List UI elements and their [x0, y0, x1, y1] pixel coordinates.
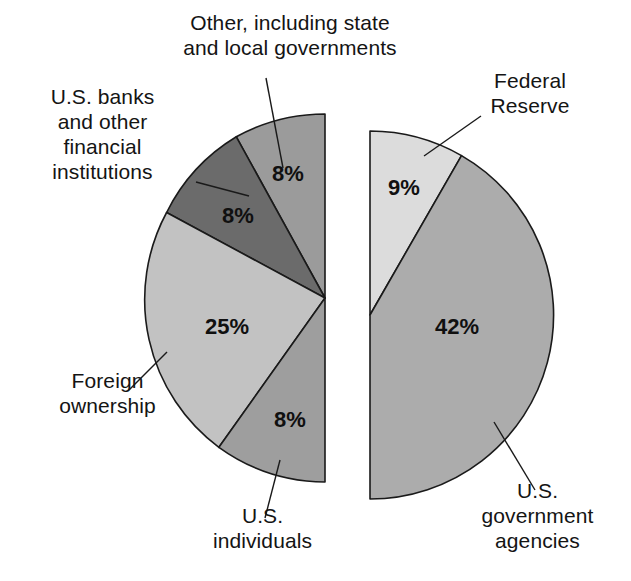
- slice-percent-banks: 8%: [222, 203, 254, 228]
- pie-chart-figure: 8% 8% 25% 8% 9% 42% Other, including sta…: [0, 0, 631, 581]
- leader-line-government-agencies: [494, 422, 535, 490]
- slice-percent-individuals: 8%: [274, 407, 306, 432]
- slice-percent-foreign: 25%: [205, 314, 249, 339]
- slice-percent-other: 8%: [272, 161, 304, 186]
- right-half-pie-group: 9% 42%: [370, 131, 554, 499]
- slice-percent-federal-reserve: 9%: [388, 175, 420, 200]
- slice-percent-government-agencies: 42%: [435, 314, 479, 339]
- pie-chart-canvas: 8% 8% 25% 8% 9% 42%: [0, 0, 631, 581]
- left-half-pie-group: 8% 8% 25% 8%: [145, 114, 325, 482]
